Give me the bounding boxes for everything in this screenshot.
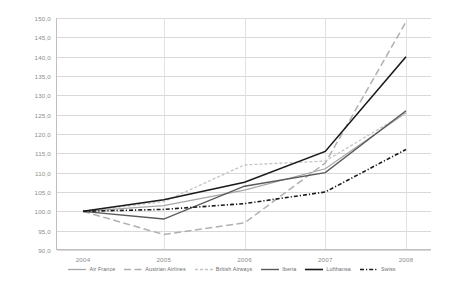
y-tick-label: 150,0 <box>35 15 51 22</box>
chart-legend: Air FranceAustrian AirlinesBritish Airwa… <box>0 266 464 272</box>
x-tick-label: 2008 <box>399 256 414 263</box>
x-tick-label: 2004 <box>76 256 91 263</box>
y-tick-label: 135,0 <box>35 73 51 80</box>
y-tick-label: 115,0 <box>35 150 51 157</box>
legend-label: British Airways <box>216 266 253 272</box>
legend-label: Air France <box>89 266 115 272</box>
y-tick-label: 130,0 <box>35 92 51 99</box>
series-line-austrian-airlines <box>83 22 406 235</box>
legend-item-air-france[interactable]: Air France <box>68 266 115 272</box>
y-tick-label: 140,0 <box>35 53 51 60</box>
y-tick-label: 125,0 <box>35 111 51 118</box>
legend-item-british-airways[interactable]: British Airways <box>195 266 253 272</box>
plot-area: 90,095,0100,0105,0110,0115,0120,0125,013… <box>56 18 431 250</box>
legend-label: Iberia <box>282 266 296 272</box>
legend-item-austrian-airlines[interactable]: Austrian Airlines <box>124 266 185 272</box>
x-tick-label: 2005 <box>156 256 171 263</box>
series-line-lufthansa <box>83 57 406 212</box>
series-line-air-france <box>83 113 406 212</box>
x-tick-label: 2007 <box>318 256 333 263</box>
y-tick-label: 105,0 <box>35 189 51 196</box>
legend-label: Lufthansa <box>326 266 351 272</box>
gridline <box>57 250 431 251</box>
x-tick-label: 2006 <box>237 256 252 263</box>
legend-item-lufthansa[interactable]: Lufthansa <box>305 266 351 272</box>
legend-item-swiss[interactable]: Swiss <box>360 266 396 272</box>
series-line-british-airways <box>83 113 406 212</box>
y-tick-label: 100,0 <box>35 208 51 215</box>
legend-swatch-icon <box>305 267 323 272</box>
series-line-swiss <box>83 149 406 211</box>
legend-swatch-icon <box>68 267 86 272</box>
legend-swatch-icon <box>195 267 213 272</box>
legend-label: Swiss <box>381 266 396 272</box>
series-lines <box>57 18 432 250</box>
legend-swatch-icon <box>261 267 279 272</box>
y-tick-label: 145,0 <box>35 34 51 41</box>
legend-label: Austrian Airlines <box>145 266 185 272</box>
legend-item-iberia[interactable]: Iberia <box>261 266 296 272</box>
legend-swatch-icon <box>124 267 142 272</box>
legend-swatch-icon <box>360 267 378 272</box>
y-tick-label: 90,0 <box>38 247 51 254</box>
y-tick-label: 120,0 <box>35 131 51 138</box>
y-tick-label: 110,0 <box>35 169 51 176</box>
y-tick-label: 95,0 <box>38 227 51 234</box>
line-chart: 90,095,0100,0105,0110,0115,0120,0125,013… <box>0 0 464 294</box>
